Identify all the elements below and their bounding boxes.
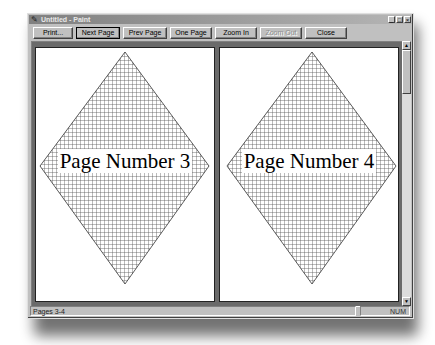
window-title: Untitled - Paint: [41, 15, 90, 24]
print-button[interactable]: Print...: [33, 27, 73, 39]
prev-page-button[interactable]: Prev Page: [123, 27, 167, 39]
paint-icon: ✎: [30, 15, 39, 24]
preview-toolbar: Print... Next Page Prev Page One Page Zo…: [29, 25, 412, 40]
preview-page-3[interactable]: Page Number 3: [35, 47, 215, 302]
status-pages: Pages 3-4: [30, 306, 356, 316]
status-num-lock: NUM: [360, 306, 410, 316]
crosshatch-diamond-icon: [220, 48, 400, 303]
print-preview-window: ✎ Untitled - Paint _ □ × Print... Next P…: [27, 13, 414, 319]
zoom-in-button[interactable]: Zoom In: [215, 27, 257, 39]
scroll-down-arrow-icon[interactable]: ▼: [402, 297, 411, 306]
scroll-up-arrow-icon[interactable]: ▲: [402, 41, 411, 50]
close-preview-button[interactable]: Close: [305, 27, 347, 39]
close-window-button[interactable]: ×: [404, 16, 411, 23]
vertical-scrollbar[interactable]: ▲ ▼: [402, 41, 411, 306]
window-controls: _ □ ×: [388, 16, 411, 23]
scroll-thumb[interactable]: [402, 50, 411, 94]
status-bar: Pages 3-4 NUM: [29, 306, 412, 316]
preview-area: Page Number 3 Page Number 4: [31, 41, 403, 307]
page-label: Page Number 3: [36, 148, 214, 174]
title-bar[interactable]: ✎ Untitled - Paint _ □ ×: [29, 15, 412, 24]
minimize-button[interactable]: _: [388, 16, 395, 23]
maximize-button[interactable]: □: [396, 16, 403, 23]
page-label: Page Number 4: [220, 148, 398, 174]
one-page-button[interactable]: One Page: [170, 27, 212, 39]
zoom-out-button: Zoom Out: [260, 27, 302, 39]
crosshatch-diamond-icon: [36, 48, 216, 303]
preview-page-4[interactable]: Page Number 4: [219, 47, 399, 302]
next-page-button[interactable]: Next Page: [76, 27, 120, 39]
